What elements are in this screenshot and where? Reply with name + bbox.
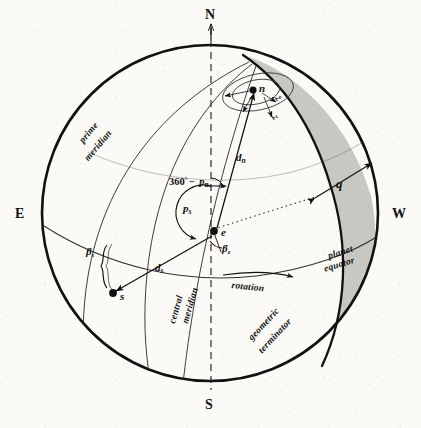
label-distance-d-n: dn [236,152,246,165]
beta-s-subscript: s [92,251,94,258]
position-angle-arc-ps [176,185,211,239]
q-baseline [214,196,318,229]
pn-expr-subscript: n [204,180,208,189]
p-s-subscript: s [189,207,192,216]
label-point-sub-solar: s [120,291,124,302]
cardinal-north: N [205,8,216,22]
label-position-angle-p-s: ps [183,203,191,216]
figure-canvas: N S E W prime meridian central meridian … [0,0,421,428]
d-n-subscript: n [242,156,246,165]
pn-expr-minus: − [189,176,198,187]
pn-expr-360: 360 [169,176,185,187]
label-crescent-width-q: q [336,177,343,190]
beta-e-subscript: e [228,248,231,255]
cardinal-west: W [392,207,407,221]
point-sub-solar [109,289,117,297]
point-north-pole [249,86,256,93]
cardinal-east: E [15,207,25,221]
d-s-subscript: s [161,266,164,275]
beta-s-brace [101,244,112,290]
rotation-arrow [223,273,293,277]
point-sub-earth [210,227,218,235]
label-position-angle-expression: 360°− pn [169,177,209,189]
cardinal-south: S [205,398,213,412]
label-point-north-pole: n [259,83,265,94]
planet-limb [42,45,378,381]
label-beta-e: βe [222,243,230,255]
pn-expr-degree: ° [185,176,188,184]
planet-geometry-diagram [0,0,421,428]
label-beta-s: βs [86,246,94,258]
label-distance-d-s: ds [155,262,163,275]
label-point-sub-earth: e [221,227,226,238]
